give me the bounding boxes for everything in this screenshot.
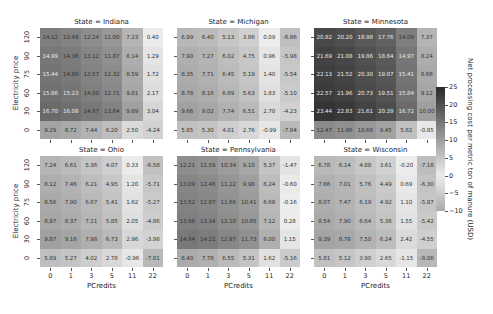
x-tick-mark [132, 140, 133, 143]
heatmap-cell: 13.12 [81, 47, 102, 66]
heatmap-cell: 7.98 [81, 230, 102, 249]
heatmap-cell: 6.20 [102, 121, 123, 140]
heatmap-cell: 6.14 [335, 156, 356, 175]
colorbar-tick-label: 15 [449, 118, 457, 126]
heatmap-cell: 6.40 [198, 28, 219, 47]
colorbar-tick-label: 0 [449, 172, 453, 180]
x-tick-label: 22 [282, 272, 298, 280]
heatmap-panel: 12.2111.5910.349.105.37-1.4713.0912.4611… [177, 156, 300, 267]
x-tick-label: 3 [83, 272, 99, 280]
x-tick-mark [187, 268, 188, 271]
heatmap-cell: 15.44 [40, 65, 61, 84]
heatmap-cell: 16.72 [396, 102, 417, 121]
heatmap-cell: 21.69 [314, 47, 335, 66]
heatmap-cell: 13.57 [81, 65, 102, 84]
heatmap-cell: 15.84 [396, 84, 417, 103]
heatmap-cell: 0.69 [396, 175, 417, 194]
y-tick-label: 30 [23, 231, 31, 247]
heatmap-cell: -4.86 [143, 212, 164, 231]
y-tick-label: 120 [23, 157, 31, 173]
x-tick-label: 11 [261, 272, 277, 280]
heatmap-cell: -4.23 [280, 102, 301, 121]
y-tick-mark [37, 37, 40, 38]
heatmap-cell: 4.02 [81, 249, 102, 268]
heatmap-cell: 0.33 [122, 156, 143, 175]
heatmap-cell: 7.71 [198, 65, 219, 84]
heatmap-cell: 2.42 [396, 230, 417, 249]
panel-title: State = Wisconsin [314, 146, 437, 154]
heatmap-cell: 5.31 [239, 249, 260, 268]
heatmap-cell: -7.84 [280, 121, 301, 140]
heatmap-cell: 0.40 [143, 28, 164, 47]
y-tick-mark [174, 258, 177, 259]
heatmap-cell: 12.87 [198, 193, 219, 212]
heatmap-cell: 2.76 [239, 121, 260, 140]
heatmap-cell: 6.61 [61, 156, 82, 175]
x-tick-mark [228, 268, 229, 271]
heatmap-cell: 8.00 [259, 230, 280, 249]
heatmap-cell: 6.55 [218, 249, 239, 268]
heatmap-cell: 9.45 [376, 121, 397, 140]
y-tick-label: 75 [23, 66, 31, 82]
heatmap-cell: -6.30 [417, 175, 438, 194]
heatmap-cell: 0.28 [280, 212, 301, 231]
heatmap-cell: 12.21 [177, 156, 198, 175]
heatmap-cell: 21.61 [355, 102, 376, 121]
y-tick-mark [174, 74, 177, 75]
y-tick-mark [37, 93, 40, 94]
x-tick-mark [345, 140, 346, 143]
heatmap-cell: 12.47 [314, 121, 335, 140]
heatmap-cell: 8.07 [314, 193, 335, 212]
heatmap-cell: 12.97 [218, 230, 239, 249]
y-tick-mark [174, 93, 177, 94]
heatmap-cell: -0.16 [280, 193, 301, 212]
colorbar-tick-mark [445, 176, 448, 177]
heatmap-cell: 21.52 [335, 65, 356, 84]
heatmap-cell: 0.96 [259, 47, 280, 66]
y-tick-label: 60 [23, 213, 31, 229]
panel-title: State = Pennsylvania [177, 146, 300, 154]
x-tick-label: 11 [124, 272, 140, 280]
colorbar-tick-label: −5 [449, 189, 459, 197]
colorbar [436, 87, 445, 211]
heatmap-cell: 6.24 [259, 175, 280, 194]
heatmap-cell: 11.87 [102, 47, 123, 66]
heatmap-cell: 8.78 [335, 230, 356, 249]
heatmap-cell: -4.55 [417, 230, 438, 249]
heatmap-cell: 19.07 [376, 65, 397, 84]
heatmap-cell: 6.73 [102, 230, 123, 249]
heatmap-cell: 5.13 [218, 28, 239, 47]
heatmap-cell: 8.37 [61, 212, 82, 231]
heatmap-cell: -0.20 [396, 156, 417, 175]
heatmap-cell: 7.01 [335, 175, 356, 194]
heatmap-cell: 19.86 [355, 47, 376, 66]
heatmap-cell: 9.98 [239, 175, 260, 194]
heatmap-cell: 5.76 [355, 175, 376, 194]
heatmap-panel: 14.1213.4912.2411.007.230.4014.9914.3613… [40, 28, 163, 139]
heatmap-cell: 5.82 [396, 121, 417, 140]
heatmap-cell: 13.09 [177, 175, 198, 194]
heatmap-cell: 13.49 [61, 28, 82, 47]
heatmap-cell: 5.89 [40, 249, 61, 268]
heatmap-cell: 8.54 [314, 212, 335, 231]
colorbar-tick-label: 20 [449, 101, 457, 109]
heatmap-cell: 7.44 [81, 121, 102, 140]
heatmap-cell: 8.16 [198, 84, 219, 103]
x-tick-mark [50, 140, 51, 143]
y-tick-mark [37, 239, 40, 240]
heatmap-cell: -5.16 [280, 249, 301, 268]
panel-title: State = Ohio [40, 146, 163, 154]
heatmap-cell: 8.35 [177, 65, 198, 84]
heatmap-cell: 14.80 [61, 65, 82, 84]
heatmap-cell: 7.37 [417, 28, 438, 47]
heatmap-panel: 20.8220.2018.9817.7614.097.3721.6921.081… [314, 28, 437, 139]
heatmap-cell: 20.30 [355, 65, 376, 84]
heatmap-cell: 11.22 [218, 175, 239, 194]
heatmap-cell: 20.82 [314, 28, 335, 47]
heatmap-cell: 7.66 [314, 175, 335, 194]
heatmap-cell: 5.12 [335, 249, 356, 268]
heatmap-cell: 6.89 [218, 84, 239, 103]
heatmap-cell: 13.52 [177, 193, 198, 212]
heatmap-cell: -1.15 [396, 249, 417, 268]
y-tick-mark [311, 130, 314, 131]
